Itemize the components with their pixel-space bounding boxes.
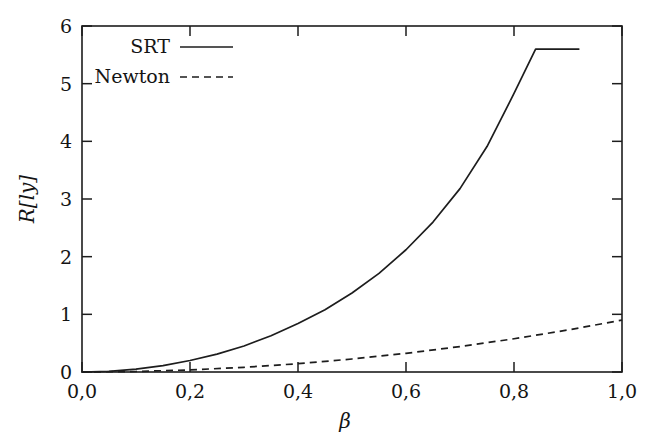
figure-container: 0 1 2 3 4 5 6 0,0 0,2 0,4 0,6 0,8 1,0 β … xyxy=(0,0,650,444)
x-tick-label-4: 0,8 xyxy=(499,380,529,402)
legend-label-newton: Newton xyxy=(95,65,170,87)
x-tick-label-5: 1,0 xyxy=(607,380,637,402)
legend-label-srt: SRT xyxy=(130,35,170,57)
y-tick-label-2: 2 xyxy=(60,246,72,268)
x-tick-label-2: 0,4 xyxy=(283,380,313,402)
x-tick-label-3: 0,6 xyxy=(391,380,421,402)
x-axis-label: β xyxy=(338,409,351,433)
x-tick-label-0: 0,0 xyxy=(67,380,97,402)
y-tick-label-1: 1 xyxy=(60,303,72,325)
line-chart: 0 1 2 3 4 5 6 0,0 0,2 0,4 0,6 0,8 1,0 β … xyxy=(0,0,650,444)
y-tick-label-5: 5 xyxy=(60,73,72,95)
y-tick-label-4: 4 xyxy=(60,130,72,152)
y-axis-label: R[ly] xyxy=(15,175,39,225)
y-tick-label-3: 3 xyxy=(60,188,72,210)
y-tick-label-6: 6 xyxy=(60,15,72,37)
x-tick-label-1: 0,2 xyxy=(175,380,205,402)
